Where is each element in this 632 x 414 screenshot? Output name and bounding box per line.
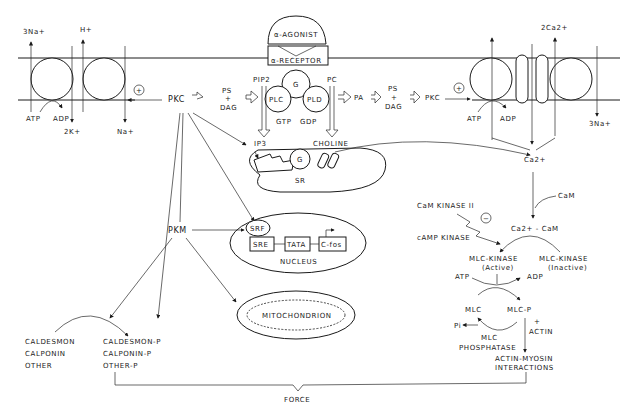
svg-text:+: +	[391, 94, 397, 102]
svg-text:PS: PS	[388, 85, 398, 93]
pkc-left: PKC	[168, 95, 185, 104]
svg-text:2K+: 2K+	[64, 128, 81, 136]
svg-text:PIP2: PIP2	[253, 76, 270, 84]
svg-text:Na+: Na+	[117, 128, 134, 136]
na-h-exchanger: H+ Na+ +	[80, 26, 162, 136]
svg-text:ADP: ADP	[53, 115, 69, 123]
svg-text:ATP: ATP	[455, 273, 470, 281]
svg-text:MLC: MLC	[465, 306, 482, 314]
svg-text:OTHER: OTHER	[25, 362, 52, 370]
unphosphorylated-proteins: CALDESMON CALPONIN OTHER	[25, 338, 75, 370]
svg-text:cAMP KINASE: cAMP KINASE	[417, 234, 470, 242]
svg-text:MLC-KINASE: MLC-KINASE	[539, 255, 588, 263]
pkc-targets	[158, 113, 254, 318]
svg-text:MLC: MLC	[481, 334, 498, 342]
phosphorylated-proteins: CALDESMON-P CALPONIN-P OTHER-P	[103, 338, 161, 370]
signaling-diagram: 3Na+ 2K+ ATP ADP H+ Na+ + PKC PS + DAG α…	[0, 0, 632, 414]
svg-text:PLD: PLD	[307, 96, 322, 104]
svg-text:Ca2+: Ca2+	[524, 156, 546, 164]
svg-text:CALPONIN-P: CALPONIN-P	[103, 350, 152, 358]
svg-text:Ca2+ - CaM: Ca2+ - CaM	[511, 225, 559, 233]
alpha-receptor-complex: α-AGONIST α-RECEPTOR G PLC PLD GTP GDP P…	[253, 16, 349, 148]
mitochondrion: MITOCHONDRION	[237, 291, 355, 339]
svg-text:C-fos: C-fos	[321, 241, 342, 249]
svg-text:ADP: ADP	[500, 115, 516, 123]
svg-text:+: +	[534, 318, 540, 326]
svg-text:−: −	[483, 215, 489, 223]
svg-text:PKC: PKC	[425, 94, 440, 102]
svg-text:PS: PS	[222, 87, 232, 95]
svg-text:ATP: ATP	[467, 115, 482, 123]
svg-text:MLC-KINASE: MLC-KINASE	[469, 255, 518, 263]
svg-text:3Na+: 3Na+	[23, 28, 45, 36]
svg-text:Pi: Pi	[454, 322, 461, 330]
svg-text:ADP: ADP	[527, 273, 543, 281]
svg-text:CALDESMON-P: CALDESMON-P	[103, 338, 161, 346]
svg-text:(Active): (Active)	[482, 264, 514, 272]
svg-text:GTP: GTP	[276, 118, 291, 126]
svg-text:G: G	[293, 81, 299, 89]
na-k-pump: 3Na+ 2K+ ATP ADP	[23, 28, 81, 136]
svg-text:G: G	[297, 156, 303, 164]
svg-text:+: +	[456, 85, 462, 93]
force-bracket: FORCE	[115, 372, 526, 404]
svg-text:FORCE: FORCE	[284, 396, 310, 404]
svg-text:DAG: DAG	[385, 103, 402, 111]
svg-text:α-RECEPTOR: α-RECEPTOR	[271, 57, 322, 65]
pkm: PKM	[168, 226, 187, 235]
svg-text:3Na+: 3Na+	[589, 120, 611, 128]
svg-text:ACTIN-MYOSIN: ACTIN-MYOSIN	[495, 355, 553, 363]
svg-text:H+: H+	[80, 26, 92, 34]
svg-text:+: +	[225, 95, 231, 103]
svg-text:PHOSPHATASE: PHOSPHATASE	[459, 344, 516, 352]
svg-text:ATP: ATP	[26, 115, 41, 123]
svg-text:DAG: DAG	[220, 104, 237, 112]
svg-text:TATA: TATA	[286, 241, 306, 249]
svg-text:CaM: CaM	[558, 192, 575, 200]
ca-atpase: ATP ADP	[467, 38, 516, 140]
svg-text:SR: SR	[295, 177, 306, 185]
nucleus: SRF SRE TATA C-fos NUCLEUS	[230, 213, 366, 273]
sarcoplasmic-reticulum: G SR	[249, 148, 385, 192]
svg-text:+: +	[136, 87, 142, 95]
svg-text:PLC: PLC	[269, 96, 284, 104]
svg-text:MITOCHONDRION: MITOCHONDRION	[262, 312, 332, 320]
svg-text:α-AGONIST: α-AGONIST	[274, 31, 318, 39]
svg-text:PC: PC	[327, 76, 337, 84]
svg-text:NUCLEUS: NUCLEUS	[280, 258, 317, 266]
svg-text:CALDESMON: CALDESMON	[25, 338, 75, 346]
na-ca-exchanger: 2Ca2+ 3Na+	[541, 24, 611, 136]
svg-text:SRE: SRE	[253, 241, 269, 249]
svg-text:2Ca2+: 2Ca2+	[541, 24, 568, 32]
svg-text:CHOLINE: CHOLINE	[313, 140, 349, 148]
mlc-phosphorylation-cycle: ATP ADP MLC MLC-P Pi MLC PHOSPHATASE + A…	[454, 273, 554, 372]
svg-text:SRF: SRF	[250, 225, 265, 233]
svg-text:MLC-P: MLC-P	[507, 306, 532, 314]
ca-channel	[516, 55, 528, 103]
svg-text:GDP: GDP	[300, 118, 317, 126]
svg-text:CALPONIN: CALPONIN	[25, 350, 66, 358]
svg-text:OTHER-P: OTHER-P	[103, 362, 138, 370]
svg-text:PA: PA	[354, 94, 364, 102]
svg-text:ACTIN: ACTIN	[529, 328, 553, 336]
svg-text:IP3: IP3	[254, 140, 267, 148]
svg-text:(Inactive): (Inactive)	[548, 264, 587, 272]
svg-text:INTERACTIONS: INTERACTIONS	[495, 364, 554, 372]
svg-text:CaM KINASE II: CaM KINASE II	[417, 202, 474, 210]
